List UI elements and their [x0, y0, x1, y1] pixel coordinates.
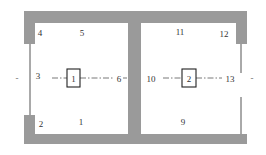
box-1-label: 1: [71, 74, 76, 83]
box-2-label: 2: [187, 74, 192, 83]
label-12: 12: [220, 30, 229, 39]
label-13: 13: [226, 75, 235, 84]
label-9: 9: [181, 118, 186, 127]
label-1: 1: [79, 118, 84, 127]
edge-mark-right: -: [251, 74, 254, 83]
label-6: 6: [117, 75, 122, 84]
label-5: 5: [80, 29, 85, 38]
label-11: 11: [176, 28, 185, 37]
label-4: 4: [38, 29, 43, 38]
right-wall-top-segment: [236, 11, 247, 44]
label-10: 10: [147, 75, 156, 84]
label-2: 2: [39, 120, 44, 129]
center-wall: [128, 11, 141, 144]
left-wall-top-segment: [24, 11, 35, 44]
edge-mark-left: -: [16, 74, 19, 83]
label-3: 3: [36, 72, 41, 81]
